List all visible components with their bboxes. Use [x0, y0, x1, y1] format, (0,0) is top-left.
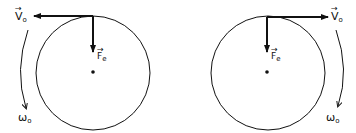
- right-center-dot: [265, 70, 269, 74]
- right-velocity-label: Vo: [331, 11, 343, 24]
- rotation-diagrams: Vo Fe ωo Vo Fe ωo: [0, 0, 356, 133]
- left-diagram: [20, 16, 150, 130]
- left-omega-label: ωo: [18, 112, 32, 125]
- right-diagram: [211, 16, 344, 130]
- diagram-canvas: [0, 0, 356, 133]
- left-force-label: Fe: [97, 52, 107, 63]
- left-rotation-arc: [20, 30, 28, 108]
- left-center-dot: [91, 70, 95, 74]
- left-velocity-label: Vo: [15, 11, 27, 24]
- right-omega-label: ωo: [326, 112, 340, 125]
- right-rotation-arc: [336, 30, 344, 106]
- right-force-label: Fe: [271, 52, 281, 63]
